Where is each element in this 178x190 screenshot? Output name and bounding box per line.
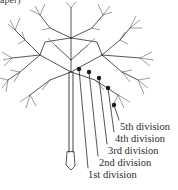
label-4th-division: 4th division <box>115 133 165 144</box>
tree-diagram <box>0 0 178 190</box>
label-3rd-division: 3rd division <box>108 145 158 156</box>
label-2nd-division: 2nd division <box>99 157 151 168</box>
label-1st-division: 1st division <box>88 169 137 180</box>
label-5th-division: 5th division <box>120 121 170 132</box>
